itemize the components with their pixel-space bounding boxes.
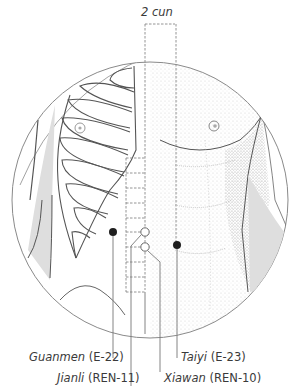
label-taiyi: Taiyi (E-23) xyxy=(181,351,246,364)
label-guanmen: Guanmen (E-22) xyxy=(29,351,124,364)
rib-cage xyxy=(58,66,137,258)
anatomy-figure xyxy=(0,0,295,388)
xiawan-point xyxy=(141,243,149,251)
guanmen-point xyxy=(109,228,117,236)
taiyi-point xyxy=(173,241,181,249)
measure-label: 2 cun xyxy=(141,5,173,19)
label-xiawan: Xiawan (REN-10) xyxy=(164,372,261,385)
jianli-point xyxy=(141,228,149,236)
label-jianli: Jianli (REN-11) xyxy=(57,372,140,385)
